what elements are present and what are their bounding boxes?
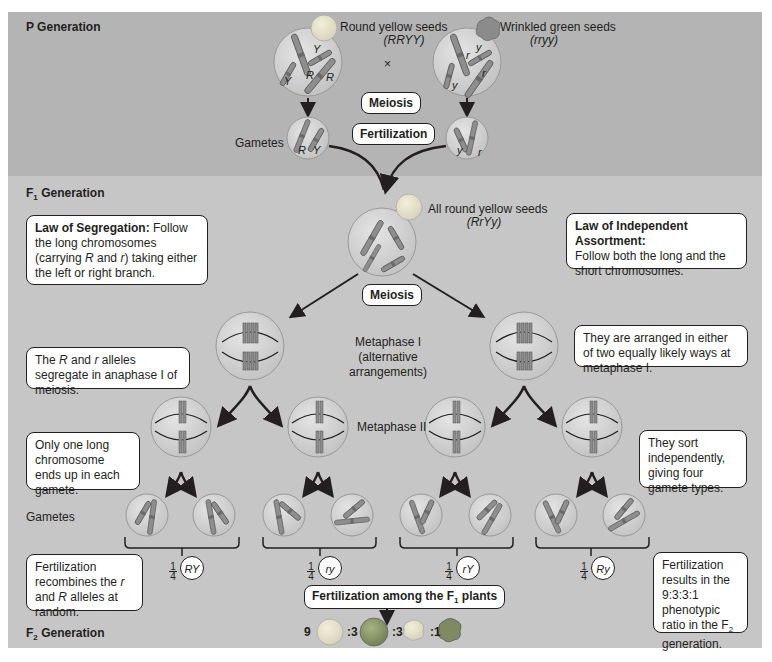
allele: R — [306, 68, 314, 82]
meiosis-label-p: Meiosis — [361, 92, 421, 114]
gamete-type-badge: Ry — [591, 556, 615, 580]
gamete-type-badge: ry — [318, 556, 342, 580]
f1-gamete-cells — [126, 494, 645, 536]
allele: r — [478, 145, 482, 159]
cross-symbol: × — [384, 57, 391, 71]
p-generation-title: P Generation — [26, 20, 100, 34]
ratio-count: :3 — [347, 625, 358, 639]
callout-one-long-chromosome: Only one long chromosome ends up in each… — [26, 432, 140, 490]
allele: r — [482, 66, 486, 80]
f1-generation-title: F1 Generation — [26, 186, 104, 202]
callout-phenotypic-ratio: Fertilization results in the 9:3:3:1 phe… — [653, 552, 748, 633]
fraction: 14 — [307, 562, 315, 581]
callout-law-of-independent-assortment: Law of Independent Assortment:Follow bot… — [566, 213, 747, 269]
callout-fertilization-recombines: Fertilization recombines the r and R all… — [26, 554, 143, 611]
parent-left-label: Round yellow seeds — [340, 20, 440, 34]
allele: Y — [284, 74, 291, 88]
callout-law-of-segregation: Law of Segregation: Follow the long chro… — [26, 215, 208, 285]
fraction: 14 — [580, 562, 588, 581]
callout-sort-independently: They sort independently, giving four gam… — [639, 430, 747, 488]
meiosis-label-f1: Meiosis — [362, 284, 422, 306]
allele: r — [466, 48, 470, 62]
fraction-ry-upper: 14 — [169, 562, 177, 581]
metaphase1-cell-left — [216, 312, 284, 380]
allele: y — [457, 143, 463, 157]
gametes-label-p: Gametes — [235, 136, 284, 150]
allele: y — [476, 40, 482, 54]
metaphase1-label: Metaphase I (alternative arrangements) — [338, 335, 438, 380]
allele: y — [452, 78, 458, 92]
parent-left-genotype: (RRYY) — [374, 33, 434, 47]
gamete-type-badge: RY — [180, 556, 204, 580]
metaphase1-cell-right — [490, 312, 558, 380]
mendel-dihybrid-diagram: P Generation Round yellow seeds (RRYY) W… — [0, 0, 772, 662]
allele: Y — [313, 143, 320, 157]
parent-right-label: Wrinkled green seeds — [500, 20, 616, 34]
f1-seed-genotype: (RrYy) — [444, 215, 524, 229]
callout-alleles-segregate: The R and r alleles segregate in anaphas… — [26, 347, 190, 389]
f1-cell — [348, 194, 422, 276]
fertilization-label-p: Fertilization — [352, 123, 435, 145]
f1-seed-label: All round yellow seeds — [428, 202, 547, 216]
gamete-cell-left — [287, 117, 329, 159]
gamete-type-badge: rY — [456, 556, 480, 580]
allele: R — [298, 143, 306, 157]
gametes-label-f1: Gametes — [26, 510, 75, 524]
fraction: 14 — [445, 562, 453, 581]
f2-generation-title: F2 Generation — [26, 626, 104, 642]
ratio-count: :3 — [392, 625, 403, 639]
ratio-count: 9 — [304, 625, 311, 639]
ratio-count: :1 — [430, 625, 441, 639]
allele: R — [326, 70, 334, 84]
fertilization-among-f1-label: Fertilization among the F1 plants — [304, 585, 505, 609]
allele: Y — [313, 42, 320, 56]
parent-right-genotype: (rryy) — [514, 33, 574, 47]
callout-arranged-two-ways: They are arranged in either of two equal… — [574, 325, 748, 367]
metaphase2-label: Metaphase II — [357, 420, 426, 434]
